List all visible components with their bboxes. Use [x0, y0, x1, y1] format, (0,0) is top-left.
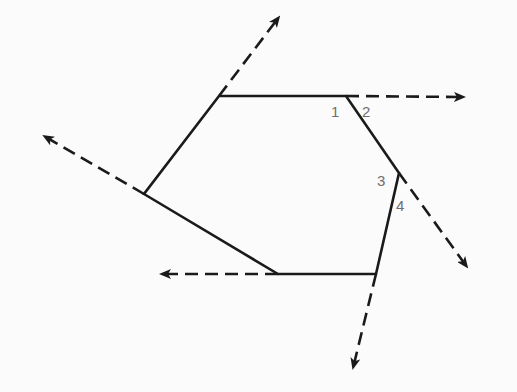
background — [0, 0, 517, 392]
angle-label-1: 1 — [331, 103, 339, 120]
angle-label-2: 2 — [362, 103, 370, 120]
angle-label-4: 4 — [396, 197, 404, 214]
angle-label-3: 3 — [377, 172, 385, 189]
hexagon-exterior-angles-diagram: 1 2 3 4 — [0, 0, 517, 392]
